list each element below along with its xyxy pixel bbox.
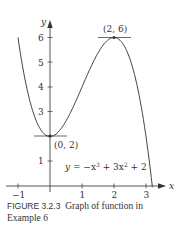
y-tick-label: 6 [38, 33, 44, 43]
max-point-label: (2, 6) [103, 24, 127, 34]
x-tick-label: 1 [80, 190, 86, 200]
x-axis-label: x [169, 181, 174, 191]
y-axis-label: y [40, 17, 47, 27]
y-tick-label: 4 [38, 82, 44, 92]
x-tick-label: 3 [144, 190, 150, 200]
y-tick-label: 5 [38, 58, 44, 68]
x-tick-label: 2 [112, 190, 118, 200]
min-point-marker [49, 135, 52, 138]
max-point-marker [113, 36, 116, 39]
y-axis-arrow-icon [47, 20, 52, 28]
figure-label: FIGURE 3.2.3 [7, 201, 60, 211]
min-point-label: (0, 2) [54, 140, 78, 150]
y-tick-label: 3 [38, 107, 44, 117]
equation-label: y = −x3 + 3x2 + 2 [64, 161, 147, 173]
x-tick-label: −1 [12, 190, 25, 200]
figure-caption: FIGURE 3.2.3 Graph of function in Exampl… [7, 201, 177, 224]
y-tick-label: 1 [38, 156, 44, 166]
function-graph: x y −1 1 2 3 1 3 4 5 6 (0, 2) (2, 6) y =… [0, 0, 177, 200]
x-axis-arrow-icon [158, 183, 166, 188]
